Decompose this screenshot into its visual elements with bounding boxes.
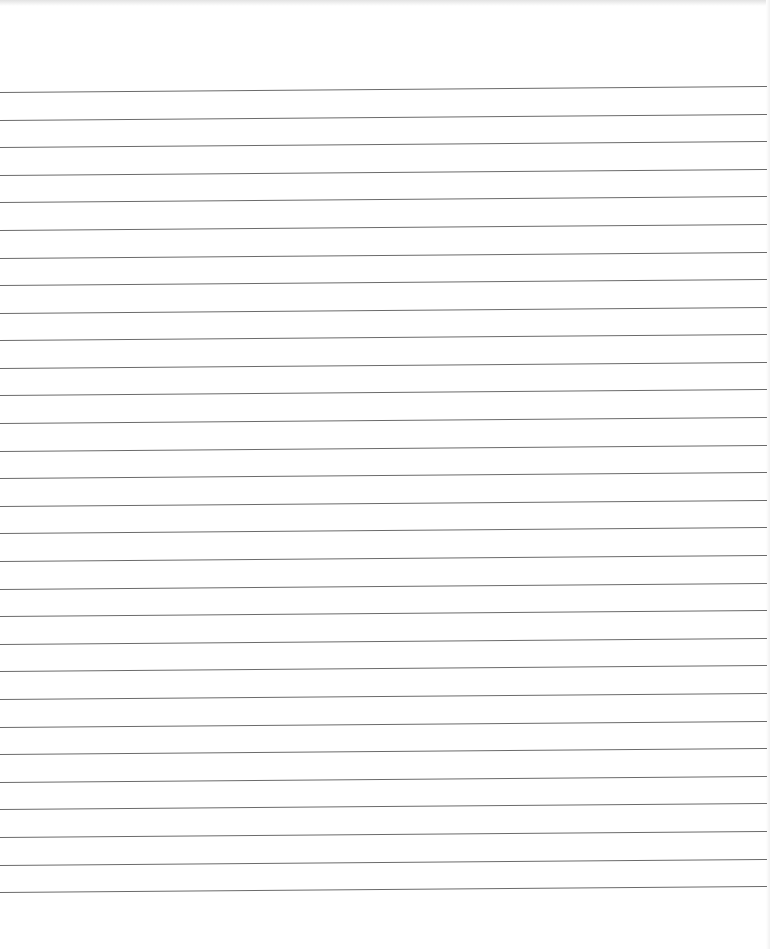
ruled-line [0,748,767,755]
ruled-line [0,638,767,645]
ruled-line [0,445,767,452]
ruled-line [0,141,767,148]
ruled-line [0,583,767,590]
ruled-line [0,693,767,700]
ruled-line [0,610,767,617]
ruled-line [0,224,767,231]
ruled-line [0,555,767,562]
ruled-line [0,831,767,838]
ruled-line [0,472,767,479]
ruled-line [0,858,767,865]
ruled-line [0,196,767,203]
ruled-line [0,886,767,893]
ruled-line [0,803,767,810]
ruled-line [0,86,767,93]
ruled-line [0,721,767,728]
ruled-line [0,776,767,783]
ruled-line [0,500,767,507]
ruled-line [0,362,767,369]
ruled-line [0,389,767,396]
ruled-line [0,334,767,341]
ruled-line [0,279,767,286]
ruled-line [0,527,767,534]
lined-paper-sheet [0,0,770,949]
ruled-line [0,114,767,121]
ruled-line [0,307,767,314]
ruled-line [0,665,767,672]
ruled-line [0,417,767,424]
ruled-line [0,169,767,176]
ruled-line [0,252,767,259]
